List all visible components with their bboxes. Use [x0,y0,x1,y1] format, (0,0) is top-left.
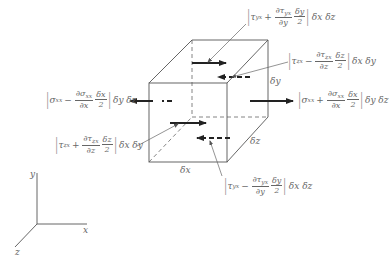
diagram-canvas [0,0,392,265]
equation-tau-zx-back: | τzx − ∂τzx∂z δz2 | δx δy [288,50,376,71]
coordinate-axes [15,173,87,247]
equation-sigma-xx-right: | σxx + ∂σxx∂x δx2 | δy δz [298,89,389,110]
equation-sigma-xx-left: | σxx − ∂σxx∂x δx2 | δy δz [46,89,137,110]
force-arrows [130,63,293,138]
equation-tau-zx-front: | τzx + ∂τzx∂z δz2 | δx δy [55,134,143,155]
axis-x-label: x [83,225,88,235]
equation-tau-yx-top: | τyx + ∂τyx∂y δy2 | δx δz [247,6,335,27]
dimension-dz-label: δz [250,136,260,146]
dimension-dy-label: δy [270,76,281,86]
dimension-dx-label: δx [180,165,191,175]
axis-z-label: z [15,247,20,257]
axis-y-label: y [30,169,35,179]
equation-tau-yx-bottom: | τyx − ∂τyx∂y δy2 | δx δz [224,175,312,196]
